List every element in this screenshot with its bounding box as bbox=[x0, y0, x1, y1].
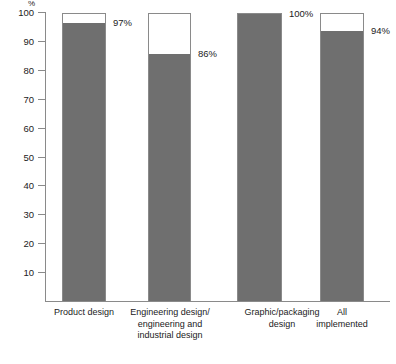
bar-outline bbox=[148, 13, 191, 302]
bar-group[interactable]: 100% bbox=[237, 13, 282, 302]
bar-outline bbox=[237, 13, 282, 302]
bar-group[interactable]: 97% bbox=[62, 13, 106, 302]
bar-value-label: 86% bbox=[198, 48, 217, 59]
y-axis-tick-label: 10 bbox=[0, 267, 34, 278]
y-axis-tick bbox=[38, 214, 45, 215]
plot-area: 97%86%100%94% bbox=[46, 12, 390, 302]
bar-value-label: 97% bbox=[113, 16, 132, 27]
category-label-line: engineering and bbox=[114, 319, 226, 331]
y-axis-tick bbox=[38, 157, 45, 158]
category-label-line: implemented bbox=[300, 319, 384, 331]
category-label-line: Engineering design/ bbox=[114, 307, 226, 319]
bar-group[interactable]: 86% bbox=[148, 13, 191, 302]
bar-value-label: 94% bbox=[371, 25, 390, 36]
bar-outline bbox=[320, 13, 364, 302]
y-axis-tick-label: 40 bbox=[0, 180, 34, 191]
bar-fill bbox=[63, 23, 105, 301]
y-axis-tick-label: 30 bbox=[0, 209, 34, 220]
y-axis-tick-label: 20 bbox=[0, 238, 34, 249]
y-axis-tick bbox=[38, 243, 45, 244]
y-axis-tick-label: 60 bbox=[0, 122, 34, 133]
y-axis-tick bbox=[38, 128, 45, 129]
bar-fill bbox=[321, 31, 363, 301]
category-label: Allimplemented bbox=[300, 307, 384, 330]
bar-outline bbox=[62, 13, 106, 302]
y-axis-tick-label: 80 bbox=[0, 64, 34, 75]
category-label-line: industrial design bbox=[114, 330, 226, 342]
bar-fill bbox=[149, 54, 190, 301]
y-axis-tick bbox=[38, 99, 45, 100]
bar-fill bbox=[238, 14, 281, 301]
y-axis-tick bbox=[38, 272, 45, 273]
y-axis-tick bbox=[38, 185, 45, 186]
bar-chart: % 102030405060708090100 97%86%100%94% Pr… bbox=[0, 0, 396, 364]
y-axis-tick-label: 100 bbox=[0, 7, 34, 18]
y-axis-tick-label: 50 bbox=[0, 151, 34, 162]
y-axis-tick bbox=[38, 41, 45, 42]
y-axis-tick-label: 70 bbox=[0, 93, 34, 104]
y-axis-tick bbox=[38, 70, 45, 71]
bar-value-label: 100% bbox=[289, 8, 313, 19]
bar-group[interactable]: 94% bbox=[320, 13, 364, 302]
category-label: Engineering design/engineering andindust… bbox=[114, 307, 226, 342]
category-label-line: All bbox=[300, 307, 384, 319]
y-axis-tick bbox=[38, 12, 45, 13]
y-axis-tick-label: 90 bbox=[0, 35, 34, 46]
